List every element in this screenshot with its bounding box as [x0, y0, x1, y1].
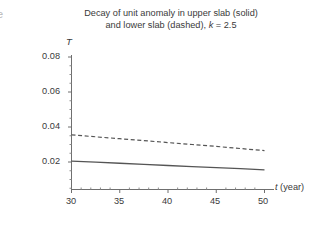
- x-major-ticks: [72, 190, 265, 194]
- figure-container: e Decay of unit anomaly in upper slab (s…: [0, 0, 321, 225]
- y-axis-group: [68, 55, 72, 190]
- plot-area: [0, 0, 321, 225]
- x-axis-group: [71, 188, 274, 194]
- data-line-lower-slab-dashed: [72, 135, 265, 151]
- data-line-upper-slab-solid: [72, 161, 265, 170]
